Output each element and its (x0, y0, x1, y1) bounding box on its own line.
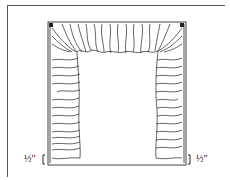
left-curtain-panel (52, 52, 80, 159)
right-measure-label: ½" (196, 154, 208, 164)
left-measure-label: ½" (24, 154, 36, 164)
measure-brackets (43, 155, 190, 164)
right-curtain-panel (156, 51, 182, 159)
valance (52, 24, 182, 53)
